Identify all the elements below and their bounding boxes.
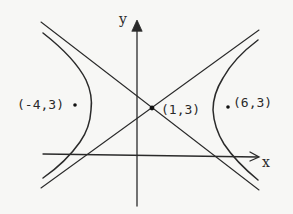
y-axis-arrow-icon: [132, 20, 142, 31]
y-axis-label: y: [119, 12, 127, 26]
left-focus-label: (-4,3): [17, 98, 64, 111]
left-focus-point: [73, 103, 77, 107]
x-axis: [43, 154, 258, 157]
x-axis-label: x: [262, 155, 270, 169]
right-focus-label: (6,3): [233, 96, 272, 109]
right-branch: [213, 40, 258, 180]
center-point: [150, 106, 155, 111]
right-focus-point: [226, 105, 230, 109]
center-label: (1,3): [161, 103, 200, 116]
hyperbola-diagram: y x (-4,3) (1,3) (6,3): [0, 0, 293, 214]
